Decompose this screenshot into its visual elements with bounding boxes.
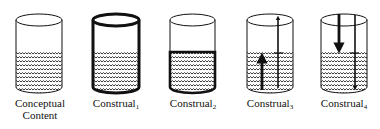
label-construal-4: Construal4 bbox=[304, 97, 380, 109]
label-text: Construal bbox=[247, 97, 290, 109]
cylinder-liquid bbox=[170, 52, 215, 93]
cylinder-construal-4 bbox=[321, 14, 367, 93]
cylinder-top bbox=[93, 14, 139, 26]
cylinder-liquid bbox=[93, 52, 139, 93]
cylinder-top bbox=[16, 14, 62, 26]
label-text: Construal bbox=[321, 97, 364, 109]
cylinder-liquid bbox=[247, 52, 293, 93]
cylinder-top bbox=[247, 14, 293, 26]
cylinder-conceptual-content bbox=[16, 14, 62, 93]
cylinder-top bbox=[170, 14, 215, 26]
label-line-2: Content bbox=[0, 109, 80, 121]
label-line-1: Conceptual bbox=[0, 97, 80, 109]
label-text: Construal bbox=[170, 97, 213, 109]
label-construal-1: Construal1 bbox=[76, 97, 156, 109]
cylinder-construal-2 bbox=[170, 14, 215, 93]
label-subscript: 4 bbox=[364, 103, 368, 111]
cylinder-liquid bbox=[321, 52, 367, 93]
label-construal-3: Construal3 bbox=[230, 97, 310, 109]
cylinder-liquid bbox=[16, 52, 62, 93]
label-subscript: 2 bbox=[213, 103, 217, 111]
label-subscript: 1 bbox=[136, 103, 140, 111]
label-subscript: 3 bbox=[290, 103, 294, 111]
label-construal-2: Construal2 bbox=[153, 97, 233, 109]
cylinder-construal-3 bbox=[247, 14, 293, 93]
label-text: Construal bbox=[93, 97, 136, 109]
cylinder-construal-1 bbox=[93, 14, 139, 93]
cylinder-top bbox=[321, 14, 367, 26]
label-conceptual-content: Conceptual Content bbox=[0, 97, 80, 121]
